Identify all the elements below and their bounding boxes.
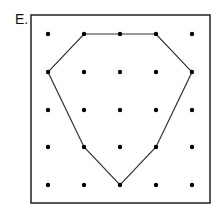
grid-dot [82,70,86,74]
grid-dot [154,32,158,36]
grid-dot [154,108,158,112]
grid-dot [154,145,158,149]
grid-dot [190,32,194,36]
grid-dot [46,32,50,36]
grid-dot [154,70,158,74]
geoboard-diagram [0,0,218,213]
grid-dot [82,183,86,187]
grid-dot [118,32,122,36]
grid-dot [46,70,50,74]
grid-dot [118,145,122,149]
grid-dot [190,145,194,149]
grid-dot [118,70,122,74]
grid-dot [118,108,122,112]
grid-dot [190,70,194,74]
grid-dot [82,108,86,112]
grid-dot [190,183,194,187]
grid-dot [46,183,50,187]
grid-dot [82,32,86,36]
grid-dot [46,108,50,112]
grid-dot [154,183,158,187]
grid-dot [46,145,50,149]
grid-dot [118,183,122,187]
grid-dot [82,145,86,149]
grid-dot [190,108,194,112]
